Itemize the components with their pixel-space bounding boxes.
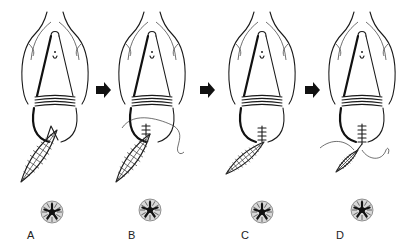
step-arrow-icon-1 xyxy=(96,82,111,98)
step-arrow-icon-2 xyxy=(200,82,215,98)
panel-label-b: B xyxy=(128,229,135,241)
surgical-diagram xyxy=(0,0,403,247)
panel-label-c: C xyxy=(241,229,249,241)
panel-c xyxy=(226,12,295,223)
panel-a xyxy=(21,12,88,223)
panel-label-a: A xyxy=(27,229,34,241)
panel-b xyxy=(116,12,185,221)
anal-rosette-d xyxy=(351,199,373,221)
anal-rosette-a xyxy=(41,201,63,223)
step-arrow-icon-3 xyxy=(305,82,320,98)
panel-d xyxy=(320,12,395,221)
panel-label-d: D xyxy=(336,229,344,241)
anal-rosette-b xyxy=(139,199,161,221)
anal-rosette-c xyxy=(251,201,273,223)
